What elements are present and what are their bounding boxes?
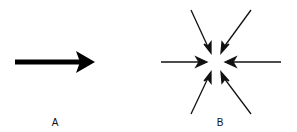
panel-a-arrow bbox=[15, 51, 95, 73]
arrow-bottom-left-head-icon bbox=[204, 72, 211, 83]
panel-b-converging-arrows bbox=[161, 10, 281, 114]
arrow-bottom-left-shaft bbox=[191, 78, 208, 114]
arrow-bottom-right-head-icon bbox=[221, 72, 229, 83]
arrow-bottom-right-shaft bbox=[224, 78, 251, 114]
arrow-top-right-head-icon bbox=[221, 42, 229, 53]
panel-a-label: A bbox=[52, 117, 59, 128]
arrow-top-left-shaft bbox=[191, 10, 208, 47]
panel-b-label: B bbox=[217, 117, 224, 128]
arrow-top-right-shaft bbox=[224, 10, 251, 47]
arrow-top-left-head-icon bbox=[204, 42, 211, 53]
diagram-canvas bbox=[0, 0, 297, 132]
